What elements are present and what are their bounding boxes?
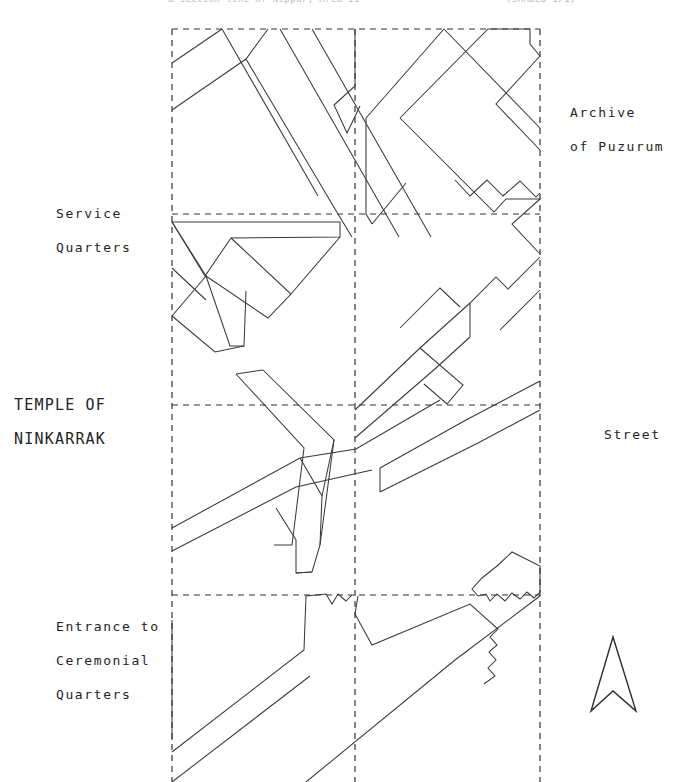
- wall-midleft-long-b: [172, 316, 244, 352]
- map-label-service-quarters: Service Quarters: [56, 197, 131, 265]
- map-label-line: NINKARRAK: [14, 422, 106, 456]
- wall-east-edge-a: [512, 199, 540, 254]
- wall-street-b: [380, 410, 540, 492]
- wall-archive-inner: [444, 29, 540, 128]
- wall-archive-step: [455, 180, 540, 197]
- map-label-line: Archive: [570, 96, 664, 130]
- wall-left-band-a: [172, 400, 440, 528]
- wall-nw-band-a: [280, 29, 399, 237]
- map-label-archive-of-puzurum: Archive of Puzurum: [570, 96, 664, 164]
- north-arrow: [591, 637, 636, 711]
- wall-archive-edge: [496, 56, 540, 150]
- wall-midright-d: [400, 288, 460, 328]
- wall-midright-b: [355, 337, 470, 438]
- wall-n-wedge: [334, 29, 360, 133]
- wall-left-band-b: [172, 470, 372, 551]
- wall-midleft-long-a: [206, 276, 246, 346]
- wall-east-edge-b: [500, 290, 540, 330]
- wall-midleft-room4: [291, 237, 340, 294]
- wall-frag-h4: [296, 572, 312, 573]
- wall-midright-a: [355, 257, 540, 410]
- wall-archive-main: [366, 29, 444, 118]
- wall-nw-3: [246, 59, 352, 237]
- wall-street-a: [380, 381, 540, 468]
- wall-central-t: [276, 458, 322, 573]
- wall-nw-band-b: [312, 29, 431, 237]
- wall-avenue-a: [172, 594, 352, 752]
- map-label-entrance-to-ceremonial-quarters: Entrance to Ceremonial Quarters: [56, 610, 160, 712]
- wall-nw-1: [172, 29, 222, 63]
- wall-midleft-room3: [206, 238, 291, 318]
- wall-nw-2: [172, 29, 268, 110]
- map-label-line: Quarters: [56, 678, 160, 712]
- wall-archive-body: [400, 118, 540, 212]
- map-label-temple-of-ninkarrak: TEMPLE OF NINKARRAK: [14, 388, 106, 456]
- north-arrow-icon: [591, 637, 636, 711]
- wall-centre-diag-c: [236, 370, 263, 374]
- wall-nw-4: [222, 29, 318, 196]
- map-label-line: Service: [56, 197, 131, 231]
- map-label-line: Street: [604, 418, 661, 452]
- map-label-line: Quarters: [56, 231, 131, 265]
- survey-grid: [172, 29, 540, 782]
- wall-corridor-a: [366, 118, 372, 224]
- wall-corridor-b: [372, 183, 406, 224]
- map-label-street: Street: [604, 418, 661, 452]
- wall-centre-diag-b: [263, 370, 334, 545]
- map-label-line: TEMPLE OF: [14, 388, 106, 422]
- map-label-line: of Puzurum: [570, 130, 664, 164]
- wall-se-block: [472, 552, 540, 601]
- wall-avenue-b: [172, 676, 310, 782]
- map-label-line: Ceremonial: [56, 644, 160, 678]
- map-label-line: Entrance to: [56, 610, 160, 644]
- wall-midleft-room2-a: [172, 222, 340, 276]
- wall-archive-outer: [400, 29, 540, 118]
